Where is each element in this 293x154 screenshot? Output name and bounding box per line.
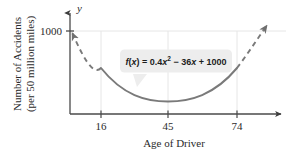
y-axis-label: Number of Accidents (per 50 million mile…	[11, 0, 37, 129]
equation-constant: 1000	[206, 57, 226, 67]
equation-plus: +	[196, 57, 206, 67]
equation-equals: =	[140, 57, 150, 67]
x-tick-label-45: 45	[163, 120, 175, 132]
x-axis-label: Age of Driver	[143, 137, 205, 149]
equation-coef-a: 0.4	[150, 57, 163, 67]
curve-dashed-right	[237, 26, 267, 68]
curve-dashed-left	[73, 34, 102, 70]
x-tick-label-74: 74	[232, 120, 244, 132]
y-axis-name: y	[76, 2, 82, 14]
callout-tail	[133, 74, 147, 87]
equation-coef-b: 36	[181, 57, 191, 67]
equation-text: f(x) = 0.4x2 − 36x + 1000	[125, 55, 226, 66]
chart-canvas: f(x) = 0.4x2 − 36x + 1000 y 1000 16 45 7…	[0, 0, 293, 154]
y-tick-label-1000: 1000	[40, 25, 63, 37]
accidents-vs-age-figure: f(x) = 0.4x2 − 36x + 1000 y 1000 16 45 7…	[0, 0, 293, 154]
curve-solid-main	[101, 68, 237, 102]
equation-minus: −	[171, 57, 181, 67]
y-axis-label-line1: Number of Accidents	[11, 0, 24, 129]
x-tick-label-16: 16	[96, 120, 108, 132]
y-axis-label-line2: (per 50 million miles)	[24, 0, 37, 129]
